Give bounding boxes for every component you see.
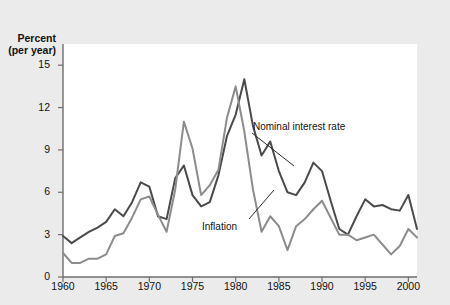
y-tick-label-15: 15 (28, 59, 50, 70)
x-tick-label-1985: 1985 (259, 281, 299, 292)
series-label-nominal-interest-rate: Nominal interest rate (253, 121, 345, 132)
y-tick-label-12: 12 (28, 102, 50, 113)
x-tick-label-2000: 2000 (388, 281, 428, 292)
plot-background (63, 44, 417, 277)
y-tick-label-9: 9 (28, 144, 50, 155)
x-tick-label-1995: 1995 (345, 281, 385, 292)
x-tick-label-1970: 1970 (129, 281, 169, 292)
x-tick-label-1975: 1975 (173, 281, 213, 292)
x-tick-label-1990: 1990 (302, 281, 342, 292)
x-tick-label-1960: 1960 (43, 281, 83, 292)
chart-figure: Percent (per year) 03691215 196019651970… (0, 0, 450, 305)
x-tick-label-1965: 1965 (86, 281, 126, 292)
y-axis-title-line1: Percent (0, 32, 56, 45)
series-label-inflation: Inflation (202, 221, 237, 232)
y-axis-title-line2: (per year) (0, 44, 56, 57)
y-tick-label-3: 3 (28, 229, 50, 240)
y-tick-label-6: 6 (28, 186, 50, 197)
line-chart (0, 0, 450, 305)
x-tick-label-1980: 1980 (216, 281, 256, 292)
y-axis-ticks (58, 65, 63, 277)
